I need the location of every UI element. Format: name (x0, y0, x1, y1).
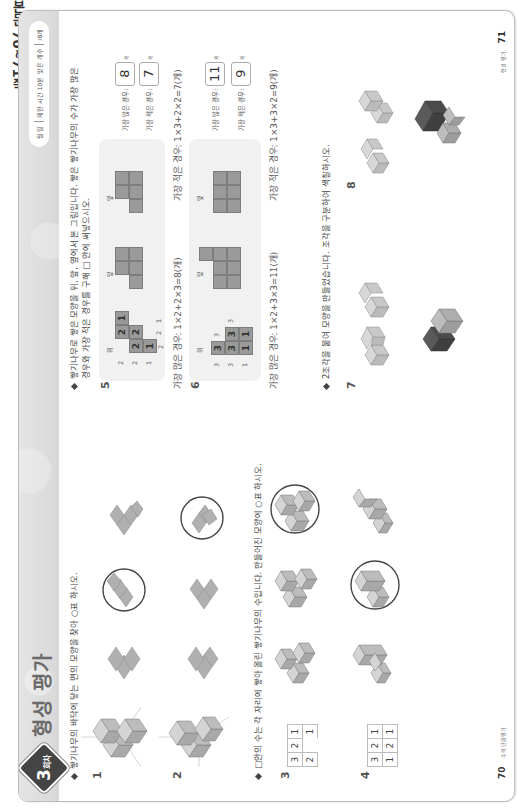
bullet-icon (71, 383, 78, 390)
question-6-number: 6 (189, 381, 202, 389)
worksheet-page: 3회차 형성 평가 월 일 제한 시간 10분 맞은 개수 /8개 쌓기나무의 … (18, 10, 515, 802)
block-structure-icon (81, 707, 157, 767)
answer-box[interactable]: 9 (231, 62, 251, 86)
explanation-least-5: 가장 적은 경우: 1×3+2×2=7(개) (171, 69, 184, 201)
date-field: 월 일 (35, 126, 44, 140)
time-score-pill: 월 일 제한 시간 10분 맞은 개수 /8개 (29, 21, 49, 147)
answer-box[interactable]: 8 (115, 62, 135, 86)
floor-shape-option-icon[interactable] (99, 643, 149, 683)
combined-shape-icon[interactable] (411, 297, 471, 361)
piece-shape-icon (355, 129, 399, 179)
question-7-number: 7 (345, 381, 358, 389)
score-label: 맞은 개수 (35, 48, 44, 74)
section3-instruction: 쌓기나무로 쌓은 모양을 위, 앞, 옆에서 본 그림입니다. 쌓은 쌓기나무의… (67, 67, 79, 389)
answer-box[interactable]: 11 (205, 62, 225, 86)
section2-instruction: □안의 수는 각 자리에 쌓아 올린 쌓기나무의 수입니다. 만들어진 모양에 … (251, 463, 263, 779)
answer-least-6: 가장 적은 경우: 9 개 (231, 55, 251, 131)
page-number-left: 70수학 단원평가 (497, 727, 507, 779)
floor-shape-option-icon[interactable] (179, 643, 229, 683)
block-shape-option-icon[interactable] (345, 555, 405, 615)
floor-shape-option-icon[interactable] (179, 573, 229, 613)
page-title: 형성 평가 (27, 653, 56, 737)
explanation-most-5: 가장 많은 경우: 1×2+2×3=8(개) (171, 257, 184, 389)
question-3-number: 3 (279, 771, 292, 779)
question-2-number: 2 (171, 771, 184, 779)
floor-shape-option-icon[interactable] (177, 495, 227, 541)
views-panel: 위 앞 옆 1 2 2 2 1 122 122 (99, 139, 165, 381)
answer-most-6: 가장 많은 경우: 11 개 (205, 55, 225, 131)
floor-shape-option-icon[interactable] (99, 567, 149, 613)
page-number-right: 형성 평가71 (497, 31, 507, 73)
piece-shape-icon (355, 273, 399, 323)
bullet-icon (71, 773, 78, 780)
score-total: /8개 (35, 29, 44, 41)
question-8-number: 8 (345, 181, 358, 189)
piece-shape-icon (355, 321, 399, 371)
bullet-icon (323, 383, 330, 390)
section4-instruction: 2조각을 붙여 모양을 만들었습니다. 조각을 구분하여 색칠하시오. (319, 144, 331, 389)
question-4-number: 4 (359, 771, 372, 779)
round-badge: 3회차 (29, 749, 59, 787)
stack-count-grid: 321 121 (367, 724, 398, 767)
block-structure-icon (159, 707, 235, 767)
question-1-number: 1 (91, 771, 104, 779)
piece-shape-icon (355, 79, 399, 129)
stack-count-grid: 321 21 (287, 724, 318, 767)
bullet-icon (255, 773, 262, 780)
views-panel: 위 앞 옆 3 3 3 1 1 133 33 (189, 139, 261, 381)
block-shape-option-icon[interactable] (347, 633, 403, 689)
rotated-page: 3회차 형성 평가 월 일 제한 시간 10분 맞은 개수 /8개 쌓기나무의 … (0, 0, 518, 812)
explanation-least-6: 가장 적은 경우: 1×3+3×2=9(개) (267, 69, 280, 201)
explanation-most-6: 가장 많은 경우: 1×2+3×3=11(개) (267, 252, 280, 389)
section1-instruction: 쌓기나무의 바닥에 닿는 면의 모양을 찾아 ○표 하시오. (67, 572, 79, 779)
block-shape-option-icon[interactable] (267, 557, 323, 613)
time-limit: 제한 시간 10분 (35, 77, 44, 118)
block-shape-option-icon[interactable] (265, 479, 325, 539)
question-5-number: 5 (99, 381, 112, 389)
answer-most-5: 가장 많은 경우: 8 개 (115, 55, 135, 131)
block-shape-option-icon[interactable] (347, 483, 403, 539)
answer-box[interactable]: 7 (139, 62, 159, 86)
section3-instruction-2: 경우와 가장 적은 경우를 구해 □ 안에 써넣으시오. (79, 198, 91, 379)
combined-shape-icon[interactable] (409, 87, 471, 151)
block-shape-option-icon[interactable] (267, 633, 323, 689)
answer-least-5: 가장 적은 경우: 7 개 (139, 55, 159, 131)
floor-shape-option-icon[interactable] (99, 499, 149, 539)
